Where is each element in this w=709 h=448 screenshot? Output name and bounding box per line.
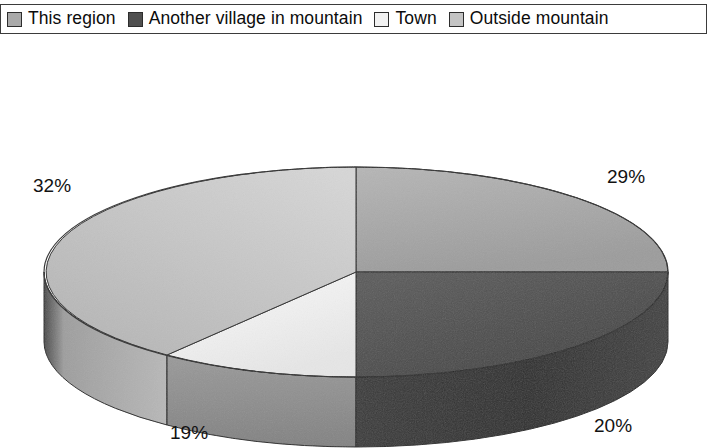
pie-label-outside-mountain: 32% [33, 176, 71, 195]
legend-label-outside-mountain: Outside mountain [470, 10, 609, 28]
pie-label-town: 19% [170, 423, 208, 442]
legend-item-this-region[interactable]: This region [7, 10, 116, 28]
legend-swatch-town [374, 12, 389, 27]
legend-swatch-this-region [7, 12, 22, 27]
legend-swatch-another-village [128, 12, 143, 27]
legend-item-another-village[interactable]: Another village in mountain [128, 10, 363, 28]
legend-item-outside-mountain[interactable]: Outside mountain [449, 10, 609, 28]
chart-legend: This region Another village in mountain … [0, 4, 707, 34]
legend-label-another-village: Another village in mountain [149, 10, 363, 28]
legend-item-town[interactable]: Town [374, 10, 436, 28]
pie-label-another-village: 20% [594, 416, 632, 435]
pie-label-this-region: 29% [607, 167, 645, 186]
pie-chart-svg [0, 36, 709, 448]
legend-label-this-region: This region [28, 10, 116, 28]
legend-swatch-outside-mountain [449, 12, 464, 27]
legend-label-town: Town [395, 10, 436, 28]
pie-chart: 32% 29% 20% 19% [0, 36, 709, 448]
